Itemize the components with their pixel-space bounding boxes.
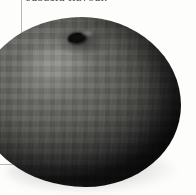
skin-highlight (18, 46, 92, 102)
stem-highlight (82, 31, 92, 36)
scanned-page: subacid flavour. (0, 0, 196, 195)
fruit-photograph (0, 0, 196, 195)
